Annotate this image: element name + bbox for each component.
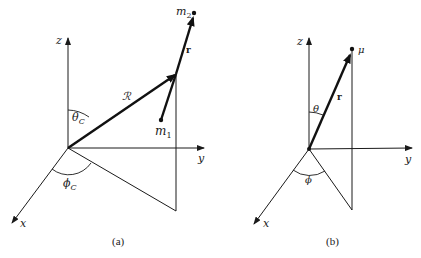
y-axis-label: y xyxy=(197,152,205,165)
m1-point xyxy=(159,118,163,122)
r-label: r xyxy=(337,92,342,102)
y-axis xyxy=(309,148,412,149)
mu-label: μ xyxy=(358,44,365,55)
phi-c-arc xyxy=(52,163,91,175)
projection-line xyxy=(68,148,176,211)
m2-label: m2 xyxy=(176,5,192,20)
projection-line xyxy=(309,149,352,210)
m1-label: m1 xyxy=(155,124,171,140)
r-label: r xyxy=(186,45,191,55)
m2-point xyxy=(192,11,196,15)
r-vector xyxy=(309,55,350,149)
coordinate-diagrams: z y x ℛ r m1 m2 θC ϕC (a) z y x μ r xyxy=(0,0,421,258)
x-axis xyxy=(12,148,68,223)
theta-label: θ xyxy=(313,103,319,114)
caption-a: (a) xyxy=(112,235,125,248)
x-axis xyxy=(254,149,309,224)
x-axis-label: x xyxy=(20,217,27,230)
panel-b: z y x μ r θ ϕ (b) xyxy=(254,35,412,248)
z-axis-label: z xyxy=(296,35,303,48)
phi-label: ϕ xyxy=(305,174,312,185)
mu-point xyxy=(350,47,354,51)
y-axis-label: y xyxy=(404,153,412,166)
phi-c-label: ϕC xyxy=(63,177,77,192)
z-axis-label: z xyxy=(55,34,62,47)
R-label: ℛ xyxy=(122,90,132,103)
m1-to-cm-segment xyxy=(161,74,176,120)
panel-a: z y x ℛ r m1 m2 θC ϕC (a) xyxy=(12,5,205,248)
caption-b: (b) xyxy=(326,235,339,248)
origin-point xyxy=(307,147,311,151)
x-axis-label: x xyxy=(263,217,270,230)
